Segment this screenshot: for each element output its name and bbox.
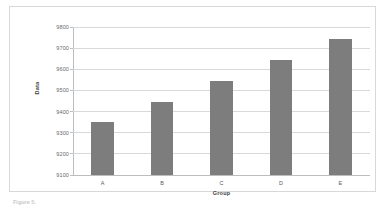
y-tick-label: 9100 <box>56 172 69 178</box>
y-tick-mark <box>70 48 73 49</box>
y-tick-mark <box>70 69 73 70</box>
y-tick-mark <box>70 132 73 133</box>
y-tick-label: 9400 <box>56 109 69 115</box>
y-tick-mark <box>70 90 73 91</box>
y-tick-label: 9800 <box>56 24 69 30</box>
y-axis-title: Data <box>34 68 40 108</box>
y-tick-mark <box>70 111 73 112</box>
y-tick-label: 9600 <box>56 66 69 72</box>
x-axis-title: Group <box>73 190 370 196</box>
x-tick-label-d: D <box>279 180 283 186</box>
x-tick-label-b: B <box>160 180 164 186</box>
y-tick-mark <box>70 175 73 176</box>
figure-frame: Data 91009200930094009500960097009800 AB… <box>9 6 376 192</box>
y-tick-mark <box>70 27 73 28</box>
y-tick-label: 9200 <box>56 151 69 157</box>
bar-d <box>270 60 293 175</box>
figure-caption-partial: Figure 5. <box>13 199 36 206</box>
y-tick-label: 9300 <box>56 130 69 136</box>
gridline <box>73 69 370 70</box>
plot-area: 91009200930094009500960097009800 ABCDE <box>73 27 370 175</box>
bar-b <box>151 102 174 175</box>
y-tick-label: 9500 <box>56 87 69 93</box>
y-tick-label: 9700 <box>56 45 69 51</box>
bar-e <box>329 39 352 175</box>
x-tick-label-e: E <box>338 180 342 186</box>
bar-c <box>210 81 233 175</box>
gridline <box>73 48 370 49</box>
y-tick-mark <box>70 153 73 154</box>
x-tick-label-a: A <box>101 180 105 186</box>
x-tick-label-c: C <box>220 180 224 186</box>
gridline <box>73 27 370 28</box>
bar-a <box>91 122 114 175</box>
